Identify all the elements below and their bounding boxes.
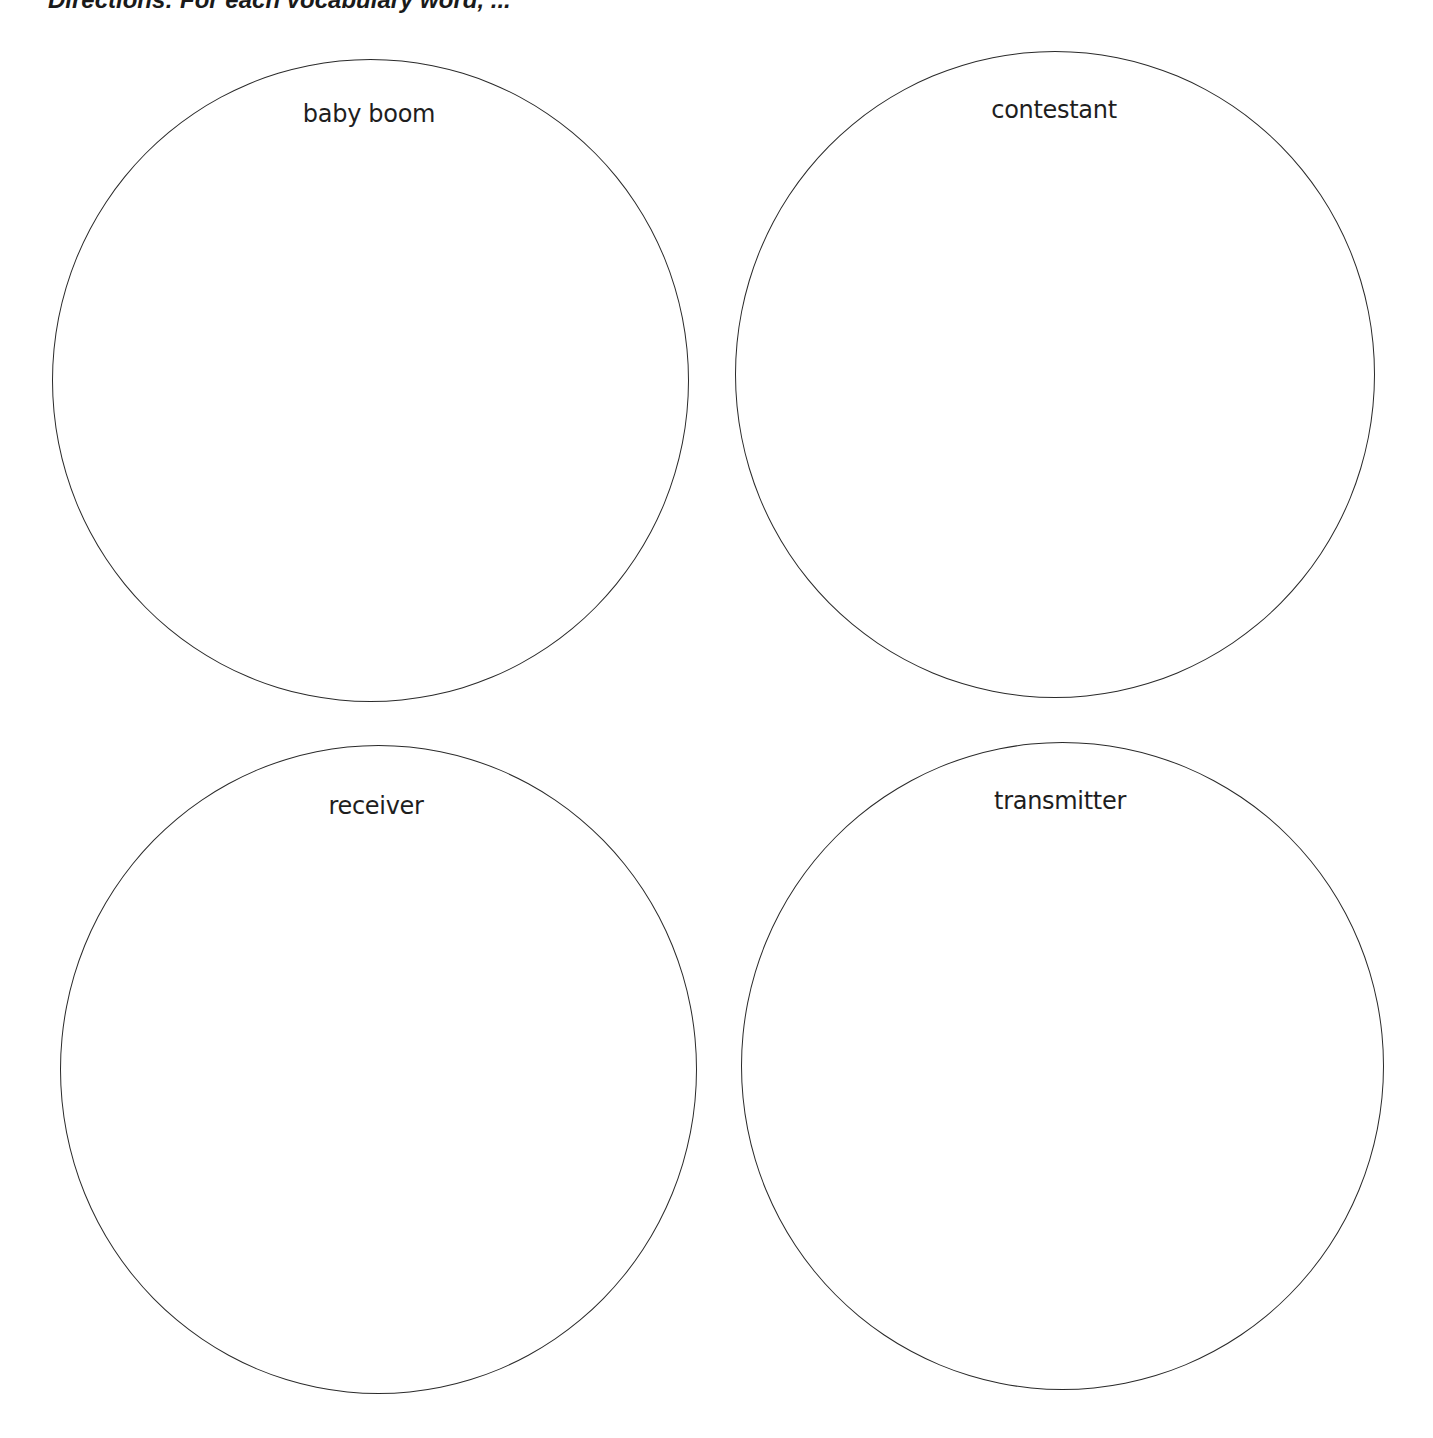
circle-label-contestant: contestant [991, 96, 1117, 124]
circle-label-receiver: receiver [328, 792, 423, 820]
directions-text: Directions: For each vocabulary word, ..… [48, 0, 511, 14]
word-circle-contestant[interactable] [735, 51, 1375, 698]
circle-label-transmitter: transmitter [994, 787, 1126, 815]
word-circle-baby-boom[interactable] [52, 59, 689, 702]
word-circle-receiver[interactable] [60, 745, 697, 1394]
circle-label-baby-boom: baby boom [303, 100, 435, 128]
word-circle-transmitter[interactable] [741, 742, 1384, 1390]
